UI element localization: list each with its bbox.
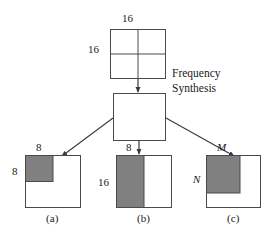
panel-a-shape <box>26 156 81 208</box>
frequency-synthesis-label: Frequency Synthesis <box>172 66 221 95</box>
synthesis-block-shape <box>114 94 166 141</box>
panel-b-shape <box>117 156 172 208</box>
panel-b-left-label: 16 <box>98 176 109 188</box>
panel-c-shaded-region <box>207 156 241 194</box>
panel-b-shaded-region <box>117 156 145 208</box>
arrow-synthesis-to-panel-a <box>62 118 113 156</box>
panel-a-caption: (a) <box>46 212 59 224</box>
panel-a-shaded-region <box>26 156 54 182</box>
source-block-top-label: 16 <box>122 12 133 24</box>
panel-b-caption: (b) <box>137 212 150 224</box>
panel-a-left-label: 8 <box>12 165 18 177</box>
frequency-synthesis-diagram: 16 16 Frequency Synthesis 8 8 (a) 8 16 (… <box>0 0 277 233</box>
source-block-shape <box>111 30 166 79</box>
panel-b-top-label: 8 <box>126 141 132 153</box>
panel-a-top-label: 8 <box>36 141 42 153</box>
panel-c-left-label: N <box>193 173 200 185</box>
panel-c-top-label: M <box>217 141 226 153</box>
diagram-canvas <box>0 0 277 233</box>
source-block-left-label: 16 <box>88 43 99 55</box>
panel-c-caption: (c) <box>227 212 240 224</box>
panel-c-shape <box>207 156 261 208</box>
